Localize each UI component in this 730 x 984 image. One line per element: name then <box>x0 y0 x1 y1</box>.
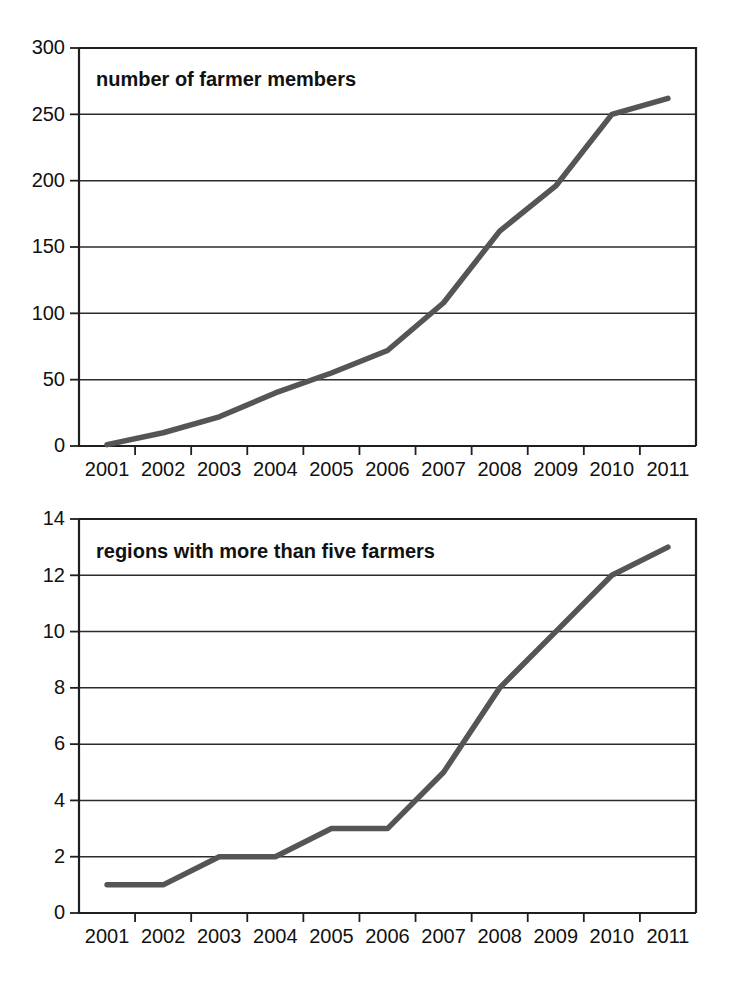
xtick-label-2009: 2009 <box>534 458 579 480</box>
ytick-label-14: 14 <box>43 507 65 529</box>
chart-farmer-members: 050100150200250300 200120022003200420052… <box>0 0 730 492</box>
xtick-label-2010: 2010 <box>590 458 635 480</box>
ytick-label-200: 200 <box>32 169 65 191</box>
series-group-1 <box>107 98 668 444</box>
ytick-label-10: 10 <box>43 620 65 642</box>
data-series-line <box>107 98 668 444</box>
ytick-label-6: 6 <box>54 732 65 754</box>
xtick-label-2002: 2002 <box>141 458 186 480</box>
data-series-line <box>107 547 668 885</box>
chart-caption-farmer-members: number of farmer members <box>96 68 356 90</box>
ytick-label-4: 4 <box>54 789 65 811</box>
axis-top-right <box>79 519 696 913</box>
ytick-label-100: 100 <box>32 302 65 324</box>
xtick-label-2008: 2008 <box>477 458 522 480</box>
xtick-label-2004: 2004 <box>253 925 298 947</box>
xtick-label-2001: 2001 <box>85 458 130 480</box>
xticks-group-1: 2001200220032004200520062007200820092010… <box>85 446 690 480</box>
xtick-label-2011: 2011 <box>646 458 689 480</box>
ytick-label-150: 150 <box>32 235 65 257</box>
xtick-label-2011: 2011 <box>646 925 689 947</box>
ytick-label-12: 12 <box>43 564 65 586</box>
chart-caption-regions-five-farmers: regions with more than five farmers <box>96 540 435 562</box>
xtick-label-2010: 2010 <box>590 925 635 947</box>
xtick-label-2005: 2005 <box>309 458 354 480</box>
ytick-label-2: 2 <box>54 845 65 867</box>
ytick-label-50: 50 <box>43 368 65 390</box>
xtick-label-2001: 2001 <box>85 925 130 947</box>
xtick-label-2008: 2008 <box>477 925 522 947</box>
ytick-label-250: 250 <box>32 103 65 125</box>
xticks-group-2: 2001200220032004200520062007200820092010… <box>85 913 690 947</box>
yticks-group-2: 02468101214 <box>43 507 79 923</box>
xtick-label-2004: 2004 <box>253 458 298 480</box>
xtick-label-2007: 2007 <box>421 925 466 947</box>
axes-group-2 <box>79 519 696 913</box>
xtick-label-2009: 2009 <box>534 925 579 947</box>
xtick-label-2003: 2003 <box>197 925 242 947</box>
ytick-label-300: 300 <box>32 36 65 58</box>
xtick-label-2006: 2006 <box>365 925 410 947</box>
xtick-label-2005: 2005 <box>309 925 354 947</box>
xtick-label-2007: 2007 <box>421 458 466 480</box>
figure-page: 050100150200250300 200120022003200420052… <box>0 0 730 984</box>
chart-farmer-members-svg: 050100150200250300 200120022003200420052… <box>0 0 730 492</box>
chart-regions-five-farmers-svg: 02468101214 2001200220032004200520062007… <box>0 492 730 984</box>
series-group-2 <box>107 547 668 885</box>
chart-regions-five-farmers: 02468101214 2001200220032004200520062007… <box>0 492 730 984</box>
xtick-label-2003: 2003 <box>197 458 242 480</box>
ytick-label-8: 8 <box>54 676 65 698</box>
ytick-label-0: 0 <box>54 901 65 923</box>
xtick-label-2006: 2006 <box>365 458 410 480</box>
ytick-label-0: 0 <box>54 434 65 456</box>
xtick-label-2002: 2002 <box>141 925 186 947</box>
gridlines-group-2 <box>79 519 696 857</box>
axis-left-bottom <box>79 519 696 913</box>
gridlines-group-1 <box>79 48 696 380</box>
yticks-group-1: 050100150200250300 <box>32 36 79 456</box>
